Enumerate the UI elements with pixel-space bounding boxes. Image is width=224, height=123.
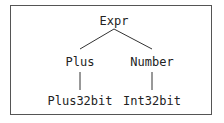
node-expr: Expr [100,14,129,28]
node-number: Number [130,55,173,69]
edge-expr-number [114,29,152,49]
node-int32bit: Int32bit [123,94,181,108]
edge-expr-plus [80,29,114,49]
node-plus32bit: Plus32bit [47,94,112,108]
node-plus: Plus [66,55,95,69]
